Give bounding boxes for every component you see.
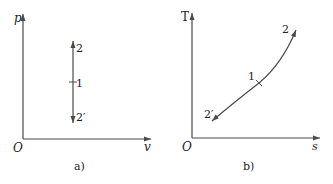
process-curve-down: [212, 83, 259, 121]
caption-a: a): [74, 160, 85, 173]
v-axis-label: v: [144, 140, 151, 154]
origin-label-a: O: [13, 141, 23, 155]
point-2-label-b: 2: [282, 23, 289, 36]
p-axis-label: p: [14, 11, 22, 25]
point-2-label-a: 2: [76, 42, 83, 55]
point-1-label-b: 1: [248, 70, 255, 83]
T-axis-label: T: [181, 10, 189, 24]
point-2prime-label-b: 2′: [204, 108, 214, 121]
s-axis-label: s: [312, 140, 318, 153]
diagram-canvas: p v O 2 1 2′ a) T s O 2 1 2′ b): [0, 0, 333, 184]
point-1-label-a: 1: [76, 77, 83, 90]
process-curve-up: [259, 30, 296, 83]
panel-b: T s O 2 1 2′ b): [181, 10, 320, 173]
point-2prime-label-a: 2′: [76, 111, 86, 124]
panel-a: p v O 2 1 2′ a): [13, 11, 151, 173]
caption-b: b): [243, 160, 254, 173]
origin-label-b: O: [182, 140, 192, 154]
